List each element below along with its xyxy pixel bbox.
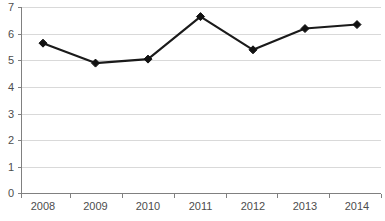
x-axis-label-2012: 2012 <box>241 200 265 212</box>
x-axis-label-2011: 2011 <box>189 200 213 212</box>
y-axis-label-4: 4 <box>8 81 14 93</box>
x-axis-label-2013: 2013 <box>293 200 317 212</box>
y-axis-label-2: 2 <box>8 134 14 146</box>
y-axis-label-5: 5 <box>8 54 14 66</box>
line-chart: 01234567 2008200920102011201220132014 <box>0 0 385 221</box>
y-axis-label-1: 1 <box>8 161 14 173</box>
x-axis-label-2010: 2010 <box>136 200 160 212</box>
y-axis-label-7: 7 <box>8 1 14 13</box>
y-axis-label-6: 6 <box>8 28 14 40</box>
y-axis-label-0: 0 <box>8 187 14 199</box>
chart-background <box>0 0 385 221</box>
x-axis-label-2009: 2009 <box>83 200 107 212</box>
x-axis-label-2008: 2008 <box>31 200 55 212</box>
chart-canvas: 01234567 2008200920102011201220132014 <box>0 0 385 221</box>
x-axis-label-2014: 2014 <box>345 200 369 212</box>
y-axis-label-3: 3 <box>8 108 14 120</box>
